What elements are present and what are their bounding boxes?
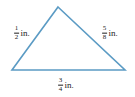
- side-label-base: 3 4 in.: [58, 77, 74, 94]
- side-label-right: 5 8 in.: [102, 25, 118, 42]
- unit-label-left: in.: [21, 29, 30, 38]
- unit-label-base: in.: [65, 81, 74, 90]
- triangle-figure: 1 2 in. 5 8 in. 3 4 in.: [0, 0, 135, 97]
- fraction-numerator: 5: [102, 25, 107, 32]
- fraction-right: 5 8: [102, 25, 107, 42]
- fraction-numerator: 3: [58, 77, 63, 84]
- fraction-left: 1 2: [14, 25, 19, 42]
- fraction-base: 3 4: [58, 77, 63, 94]
- unit-label-right: in.: [109, 29, 118, 38]
- fraction-denominator: 2: [14, 34, 19, 41]
- fraction-numerator: 1: [14, 25, 19, 32]
- fraction-denominator: 8: [102, 34, 107, 41]
- fraction-denominator: 4: [58, 86, 63, 93]
- side-label-left: 1 2 in.: [14, 25, 30, 42]
